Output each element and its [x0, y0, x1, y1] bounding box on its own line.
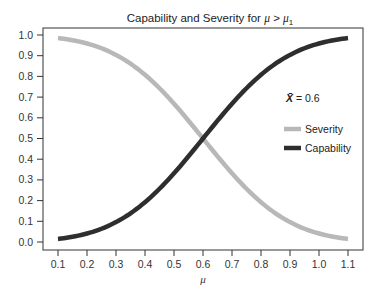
legend-label-capability: Capability	[305, 142, 352, 154]
y-tick-label: 1.0	[18, 29, 33, 41]
x-axis: 0.10.20.30.40.50.60.70.80.91.01.1	[51, 250, 356, 270]
x-axis-label: μ	[199, 273, 206, 285]
y-tick-label: 0.0	[18, 236, 33, 248]
x-tick-label: 0.4	[138, 258, 153, 270]
legend-label-severity: Severity	[305, 123, 344, 135]
y-tick-label: 0.3	[18, 173, 33, 185]
y-tick-label: 0.6	[18, 111, 33, 123]
chart: Capability and Severity for μ > μ1 0.00.…	[0, 0, 382, 297]
x-tick-label: 0.7	[225, 258, 240, 270]
x-tick-label: 0.9	[283, 258, 298, 270]
y-tick-label: 0.4	[18, 153, 33, 165]
y-tick-label: 0.1	[18, 215, 33, 227]
x-tick-label: 0.3	[109, 258, 124, 270]
y-tick-label: 0.9	[18, 49, 33, 61]
x-tick-label: 0.2	[80, 258, 95, 270]
y-tick-label: 0.8	[18, 70, 33, 82]
x-tick-label: 1.1	[341, 258, 356, 270]
y-tick-label: 0.7	[18, 91, 33, 103]
x-tick-label: 0.1	[51, 258, 66, 270]
x-tick-label: 0.6	[196, 258, 211, 270]
chart-title: Capability and Severity for μ > μ1	[127, 12, 294, 27]
x-tick-label: 1.0	[312, 258, 327, 270]
y-tick-label: 0.2	[18, 194, 33, 206]
x-tick-label: 0.8	[254, 258, 269, 270]
xbar-annotation: X̄ = 0.6	[285, 92, 320, 104]
y-axis: 0.00.10.20.30.40.50.60.70.80.91.0	[18, 29, 43, 248]
y-tick-label: 0.5	[18, 132, 33, 144]
x-tick-label: 0.5	[167, 258, 182, 270]
